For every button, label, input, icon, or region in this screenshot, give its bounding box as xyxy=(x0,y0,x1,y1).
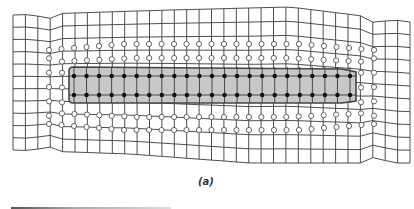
figure-caption: (a) xyxy=(198,176,214,187)
divider-line xyxy=(11,207,171,209)
shaded-inner-region xyxy=(69,67,356,103)
